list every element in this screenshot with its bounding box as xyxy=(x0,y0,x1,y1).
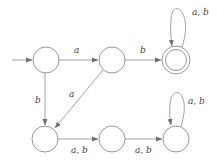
transition-q3-q4: a, b xyxy=(58,139,98,155)
transition-q1-q3: a xyxy=(55,70,103,128)
state-q3 xyxy=(32,126,58,152)
transition-q0-q1: a xyxy=(59,45,98,60)
transition-q2-loop: a, b xyxy=(171,7,210,47)
transition-label: b xyxy=(140,45,146,55)
transition-label: a, b xyxy=(192,7,209,17)
state-q4 xyxy=(99,126,125,152)
transition-label: a, b xyxy=(135,145,152,155)
transition-label: b xyxy=(35,95,41,105)
transition-label: a, b xyxy=(188,96,205,106)
automaton-diagram: a b a, b b a a, b a, b a, b xyxy=(0,0,217,163)
transition-q5-loop: a, b xyxy=(170,92,206,126)
state-q0 xyxy=(33,47,59,73)
state-q5 xyxy=(163,126,189,152)
transition-label: a, b xyxy=(71,145,88,155)
transition-label: a xyxy=(69,89,74,99)
transition-q1-q2: b xyxy=(125,45,161,60)
state-q1 xyxy=(99,47,125,73)
transition-label: a xyxy=(74,45,79,55)
state-q2-accept-inner xyxy=(166,50,187,71)
transition-q4-q5: a, b xyxy=(125,139,162,155)
transition-q0-q3: b xyxy=(35,73,45,125)
